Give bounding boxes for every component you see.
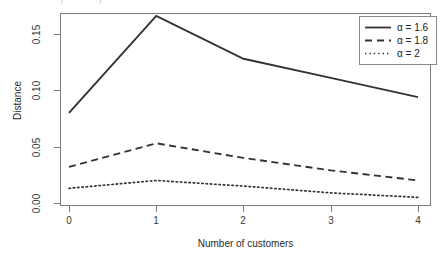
x-tick-mark-3 — [331, 206, 332, 212]
y-tick-mark-0 — [54, 203, 60, 204]
legend-item-alpha-1-8: α = 1.8 — [364, 34, 431, 47]
x-tick-mark-2 — [243, 206, 244, 212]
x-tick-label-4: 4 — [408, 215, 428, 226]
legend: α = 1.6 α = 1.8 α = 2 — [359, 16, 437, 65]
x-tick-mark-1 — [156, 206, 157, 212]
y-tick-mark-3 — [54, 34, 60, 35]
y-tick-label-2: 0.10 — [31, 76, 42, 106]
x-tick-label-1: 1 — [146, 215, 166, 226]
chart-figure: · · · · · · ·· ·· ·)· · · · · ·) 0.00 0.… — [0, 0, 441, 265]
caption-remnant-text: · · · · · · ·· ·· ·)· · · · · ·) — [0, 0, 441, 4]
legend-key-solid — [364, 22, 392, 33]
x-tick-label-0: 0 — [59, 215, 79, 226]
y-tick-label-1: 0.05 — [31, 133, 42, 163]
legend-label-alpha-2: α = 2 — [397, 48, 420, 59]
legend-label-alpha-1-8: α = 1.8 — [397, 35, 428, 46]
x-tick-mark-0 — [69, 206, 70, 212]
legend-label-alpha-1-6: α = 1.6 — [397, 22, 428, 33]
y-tick-mark-2 — [54, 90, 60, 91]
x-tick-mark-4 — [418, 206, 419, 212]
x-axis-label: Number of customers — [60, 238, 431, 249]
legend-key-dotted — [364, 48, 392, 59]
y-axis-label: Distance — [12, 56, 23, 146]
x-tick-label-2: 2 — [233, 215, 253, 226]
legend-item-alpha-2: α = 2 — [364, 47, 431, 60]
y-tick-label-3: 0.15 — [31, 20, 42, 50]
x-tick-label-3: 3 — [321, 215, 341, 226]
y-tick-mark-1 — [54, 147, 60, 148]
legend-key-dashed — [364, 35, 392, 46]
y-tick-label-0: 0.00 — [31, 189, 42, 219]
legend-item-alpha-1-6: α = 1.6 — [364, 21, 431, 34]
